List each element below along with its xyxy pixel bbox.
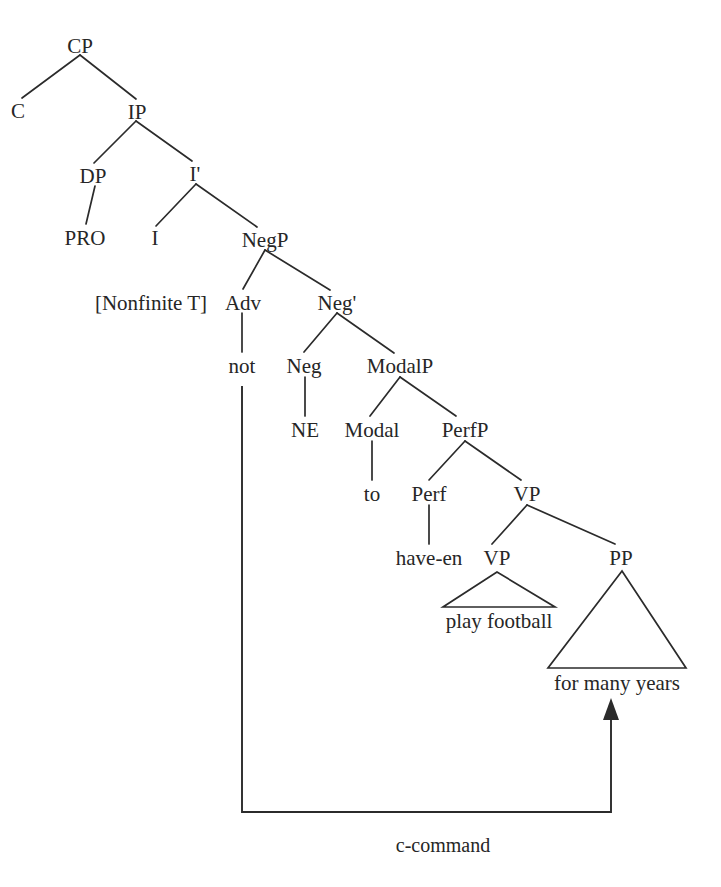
- node-neg: Neg: [287, 354, 322, 378]
- node-perf: Perf: [412, 482, 447, 506]
- node-cp: CP: [67, 34, 93, 58]
- node-neg-bar: Neg': [318, 291, 357, 315]
- node-modal: Modal: [345, 418, 400, 442]
- node-pp: PP: [609, 546, 632, 570]
- node-c: C: [11, 99, 25, 123]
- node-dp: DP: [80, 164, 107, 188]
- node-vp-upper: VP: [514, 482, 541, 506]
- leaf-have-en: have-en: [396, 546, 463, 570]
- leaf-to: to: [364, 482, 380, 506]
- node-i-bar: I': [190, 162, 201, 186]
- syntax-tree-diagram: CP C IP DP I' PRO I NegP [Nonfinite T] A…: [0, 0, 721, 887]
- leaf-pro: PRO: [65, 226, 106, 250]
- node-i: I: [152, 226, 159, 250]
- node-negp: NegP: [242, 228, 289, 252]
- feature-nonfinite-t: [Nonfinite T]: [95, 291, 207, 315]
- canvas-background: [0, 0, 721, 887]
- leaf-not: not: [229, 354, 256, 378]
- leaf-play-football: play football: [446, 609, 553, 633]
- node-vp-lower: VP: [484, 546, 511, 570]
- leaf-for-many-years: for many years: [554, 671, 680, 695]
- node-perfp: PerfP: [442, 418, 489, 442]
- node-modalp: ModalP: [367, 354, 434, 378]
- ccommand-label: c-command: [396, 834, 490, 856]
- node-adv: Adv: [225, 291, 262, 315]
- node-ip: IP: [128, 100, 147, 124]
- leaf-ne: NE: [291, 418, 319, 442]
